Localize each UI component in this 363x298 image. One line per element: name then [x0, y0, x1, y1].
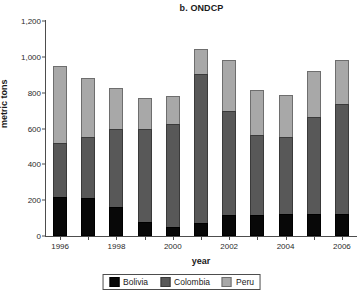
bar-segment-bolivia — [335, 214, 349, 236]
x-tick-mark — [229, 236, 230, 240]
y-tick-mark — [42, 21, 46, 22]
bar-segment-bolivia — [81, 198, 95, 236]
legend-swatch-colombia — [160, 277, 170, 287]
bar-segment-bolivia — [53, 197, 67, 236]
bar-segment-peru — [81, 78, 95, 136]
chart-title: b. ONDCP — [0, 3, 363, 13]
x-axis-label: year — [46, 256, 356, 266]
bar-segment-peru — [166, 96, 180, 124]
bar-segment-peru — [222, 60, 236, 110]
bar-segment-bolivia — [307, 214, 321, 236]
y-tick-label: 1,200 — [0, 17, 46, 26]
bar-segment-colombia — [307, 117, 321, 214]
legend-item-peru: Peru — [222, 277, 254, 287]
bar-segment-bolivia — [279, 214, 293, 236]
bar-segment-peru — [335, 60, 349, 104]
bar-segment-bolivia — [250, 215, 264, 236]
bar-segment-colombia — [335, 104, 349, 213]
x-tick-mark — [342, 236, 343, 240]
chart-container: b. ONDCP metric tons 02004006008001,0001… — [0, 0, 363, 298]
x-tick-mark — [201, 236, 202, 240]
bar-segment-bolivia — [109, 207, 123, 236]
y-tick-label: 600 — [0, 124, 46, 133]
legend-item-bolivia: Bolivia — [109, 277, 148, 287]
bar-2003[interactable] — [250, 90, 264, 236]
x-tick-label: 1998 — [108, 242, 126, 251]
bar-1997[interactable] — [81, 78, 95, 236]
bar-1996[interactable] — [53, 66, 67, 236]
x-tick-mark — [60, 236, 61, 240]
bar-2000[interactable] — [166, 96, 180, 236]
y-tick-mark — [42, 164, 46, 165]
x-tick-label: 2000 — [164, 242, 182, 251]
legend-swatch-bolivia — [109, 277, 119, 287]
bar-2004[interactable] — [279, 95, 293, 236]
y-axis-label: metric tons — [0, 79, 9, 128]
bar-segment-colombia — [250, 135, 264, 216]
bar-segment-bolivia — [222, 215, 236, 237]
x-tick-mark — [88, 236, 89, 240]
legend-item-colombia: Colombia — [160, 277, 210, 287]
bar-segment-colombia — [166, 124, 180, 227]
y-tick-mark — [42, 128, 46, 129]
y-tick-label: 1,000 — [0, 52, 46, 61]
y-tick-mark — [42, 56, 46, 57]
bar-segment-colombia — [53, 143, 67, 197]
x-tick-mark — [116, 236, 117, 240]
bar-2002[interactable] — [222, 60, 236, 236]
legend-label-bolivia: Bolivia — [123, 277, 148, 287]
x-tick-mark — [257, 236, 258, 240]
bar-1999[interactable] — [138, 98, 152, 236]
bar-segment-colombia — [194, 74, 208, 224]
x-tick-mark — [314, 236, 315, 240]
plot-area: 02004006008001,0001,200 — [46, 21, 356, 236]
legend-label-peru: Peru — [236, 277, 254, 287]
bar-segment-colombia — [81, 137, 95, 199]
bar-segment-peru — [307, 71, 321, 117]
bar-segment-bolivia — [194, 223, 208, 236]
bar-segment-peru — [194, 49, 208, 74]
bar-segment-peru — [279, 95, 293, 136]
x-tick-label: 2004 — [277, 242, 295, 251]
bar-segment-peru — [250, 90, 264, 135]
y-tick-label: 0 — [0, 232, 46, 241]
y-tick-label: 200 — [0, 196, 46, 205]
bar-segment-colombia — [138, 129, 152, 221]
bar-segment-bolivia — [138, 222, 152, 236]
bar-segment-colombia — [279, 137, 293, 214]
bar-2006[interactable] — [335, 60, 349, 236]
bar-2005[interactable] — [307, 71, 321, 236]
bar-segment-colombia — [222, 111, 236, 215]
bar-segment-peru — [53, 66, 67, 143]
x-tick-label: 2006 — [333, 242, 351, 251]
x-tick-label: 2002 — [220, 242, 238, 251]
y-tick-label: 800 — [0, 88, 46, 97]
y-tick-label: 400 — [0, 160, 46, 169]
bar-segment-bolivia — [166, 227, 180, 236]
y-tick-mark — [42, 92, 46, 93]
bar-segment-peru — [109, 88, 123, 129]
x-tick-mark — [173, 236, 174, 240]
x-tick-mark — [145, 236, 146, 240]
bar-2001[interactable] — [194, 49, 208, 236]
legend-swatch-peru — [222, 277, 232, 287]
y-tick-mark — [42, 236, 46, 237]
x-tick-mark — [286, 236, 287, 240]
y-tick-mark — [42, 200, 46, 201]
legend-label-colombia: Colombia — [174, 277, 210, 287]
x-tick-label: 1996 — [51, 242, 69, 251]
bar-segment-colombia — [109, 129, 123, 207]
chart-legend: Bolivia Colombia Peru — [102, 274, 261, 290]
bar-segment-peru — [138, 98, 152, 129]
bar-1998[interactable] — [109, 88, 123, 236]
